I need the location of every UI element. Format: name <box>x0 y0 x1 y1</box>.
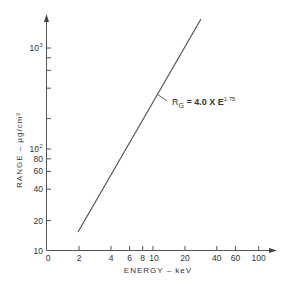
y-tick-60: 60 <box>34 166 44 176</box>
y-tick-80: 80 <box>34 154 44 164</box>
y-ticks <box>47 48 52 221</box>
range-energy-chart: 10 20 40 60 80 10 2 10 3 0 2 4 6 8 10 20… <box>0 0 289 287</box>
x-tick-6: 6 <box>127 253 132 263</box>
y-tick-labels: 10 20 40 60 80 10 2 10 3 <box>30 42 44 256</box>
equation-annotation: RG = 4.0 X E1.75 <box>172 96 236 109</box>
y-tick-100-exp: 2 <box>40 143 43 149</box>
x-tick-10: 10 <box>149 253 159 263</box>
y-tick-20: 20 <box>34 216 44 226</box>
x-ticks <box>79 246 259 251</box>
y-tick-1000: 10 <box>30 43 40 53</box>
y-tick-10: 10 <box>34 246 44 256</box>
data-line-range <box>78 19 201 232</box>
y-tick-40: 40 <box>34 184 44 194</box>
x-tick-2: 2 <box>77 253 82 263</box>
x-tick-8: 8 <box>140 253 145 263</box>
x-tick-4: 4 <box>109 253 114 263</box>
x-tick-0: 0 <box>46 253 51 263</box>
annotation-leader <box>157 94 167 101</box>
y-tick-1000-exp: 3 <box>40 42 43 48</box>
y-tick-100: 10 <box>30 144 40 154</box>
y-axis-arrow-icon <box>44 14 49 22</box>
x-axis-arrow-icon <box>269 248 277 253</box>
y-axis <box>44 14 49 251</box>
x-tick-labels: 0 2 4 6 8 10 20 40 60 100 <box>46 253 266 263</box>
x-axis-title: ENERGY – keV <box>124 266 192 275</box>
x-tick-40: 40 <box>212 253 222 263</box>
y-axis-title: RANGE – µg/cm² <box>15 112 24 188</box>
x-tick-100: 100 <box>252 253 266 263</box>
x-tick-20: 20 <box>180 253 190 263</box>
x-tick-60: 60 <box>231 253 241 263</box>
